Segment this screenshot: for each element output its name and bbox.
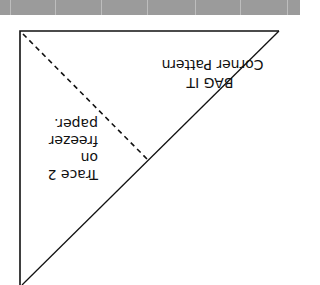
instruction-line: freezer (38, 132, 98, 149)
pattern-subtitle: BAG IT (160, 75, 260, 91)
instruction-line: paper. (38, 115, 98, 132)
instruction-line: Trace 2 (38, 166, 98, 183)
instruction-text: Trace 2 on freezer paper. (38, 115, 98, 183)
instruction-line: on (38, 149, 98, 166)
pattern-title: Corner Pattern (150, 57, 275, 73)
